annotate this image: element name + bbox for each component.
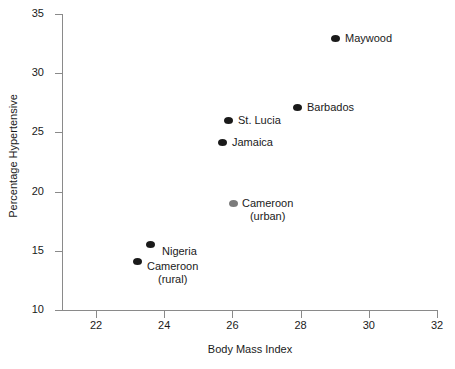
y-tick-35 <box>55 14 62 15</box>
x-tick-label-30: 30 <box>354 320 384 331</box>
x-tick-26 <box>232 311 233 318</box>
data-point-label-maywood: Maywood <box>345 32 392 45</box>
data-point-label-st-lucia: St. Lucia <box>238 114 281 127</box>
y-tick-label-15: 15 <box>0 245 44 256</box>
data-point-label-cameroon-rural: Cameroon (rural) <box>147 260 198 285</box>
x-tick-label-22: 22 <box>81 320 111 331</box>
x-tick-22 <box>96 311 97 318</box>
data-point-label-barbados: Barbados <box>307 101 354 114</box>
x-tick-label-24: 24 <box>149 320 179 331</box>
x-tick-label-32: 32 <box>422 320 452 331</box>
data-point-st-lucia <box>224 117 233 124</box>
y-tick-30 <box>55 73 62 74</box>
y-tick-label-35: 35 <box>0 8 44 19</box>
x-tick-32 <box>437 311 438 318</box>
y-axis-title: Percentage Hypertensive <box>7 76 19 236</box>
data-point-barbados <box>293 104 302 111</box>
y-tick-15 <box>55 251 62 252</box>
x-tick-label-26: 26 <box>217 320 247 331</box>
y-tick-20 <box>55 192 62 193</box>
y-tick-label-10: 10 <box>0 304 44 315</box>
data-point-nigeria <box>146 241 155 248</box>
y-tick-25 <box>55 132 62 133</box>
x-axis-line <box>62 310 438 311</box>
x-tick-24 <box>164 311 165 318</box>
scatter-chart: 101520253035 222426283032 MaywoodBarbado… <box>0 0 455 369</box>
x-tick-30 <box>369 311 370 318</box>
data-point-label-jamaica: Jamaica <box>232 136 273 149</box>
data-point-cameroon-rural <box>133 258 142 265</box>
y-axis-line <box>62 14 63 311</box>
data-point-label-cameroon-urban: Cameroon (urban) <box>242 197 293 222</box>
x-tick-28 <box>301 311 302 318</box>
data-point-maywood <box>331 35 340 42</box>
data-point-cameroon-urban <box>229 200 238 207</box>
y-tick-10 <box>55 310 62 311</box>
data-point-label-nigeria: Nigeria <box>162 245 197 258</box>
x-tick-label-28: 28 <box>286 320 316 331</box>
data-point-jamaica <box>218 139 227 146</box>
x-axis-title: Body Mass Index <box>62 343 438 355</box>
